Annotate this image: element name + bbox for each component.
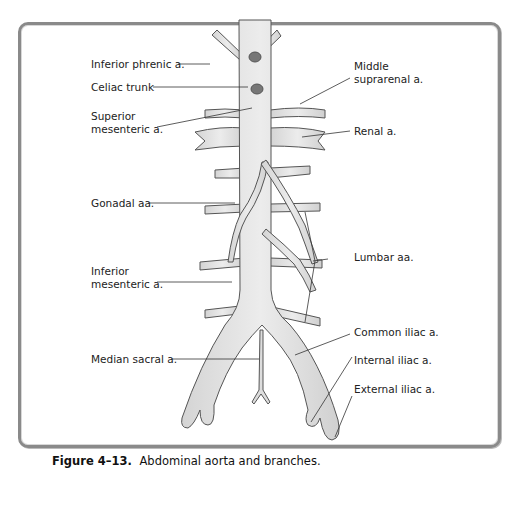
celiac-trunk-opening	[249, 52, 261, 62]
label-lumbar: Lumbar aa.	[354, 251, 414, 264]
lumbar-3-left	[200, 258, 245, 270]
inferior-phrenic-left	[212, 30, 243, 60]
superior-mesenteric-opening	[251, 84, 263, 94]
renal-left	[195, 128, 245, 151]
label-middle-suprarenal-line1: Middle	[354, 60, 423, 73]
lumbar-2-left	[205, 204, 245, 214]
label-gonadal: Gonadal aa.	[91, 197, 154, 210]
label-inferior-mesenteric-line1: Inferior	[91, 265, 163, 278]
figure-number: Figure 4–13.	[52, 454, 132, 468]
figure-caption: Figure 4–13. Abdominal aorta and branche…	[52, 454, 321, 468]
label-renal: Renal a.	[354, 125, 396, 138]
label-celiac-trunk: Celiac trunk	[91, 81, 154, 94]
renal-right	[270, 128, 325, 151]
median-sacral-artery	[252, 330, 270, 404]
label-inferior-phrenic: Inferior phrenic a.	[91, 58, 185, 71]
label-internal-iliac: Internal iliac a.	[354, 354, 432, 367]
label-external-iliac: External iliac a.	[354, 383, 435, 396]
figure-caption-text: Abdominal aorta and branches.	[139, 454, 320, 468]
label-common-iliac: Common iliac a.	[354, 326, 439, 339]
label-inferior-mesenteric-line2: mesenteric a.	[91, 278, 163, 291]
label-superior-mesenteric-line2: mesenteric a.	[91, 123, 163, 136]
label-superior-mesenteric-line1: Superior	[91, 110, 163, 123]
label-median-sacral: Median sacral a.	[91, 353, 177, 366]
label-middle-suprarenal-line2: suprarenal a.	[354, 73, 423, 86]
middle-suprarenal-right	[270, 108, 325, 118]
label-middle-suprarenal: Middle suprarenal a.	[354, 60, 423, 85]
label-superior-mesenteric: Superior mesenteric a.	[91, 110, 163, 135]
aorta-illustration	[0, 0, 521, 509]
label-inferior-mesenteric: Inferior mesenteric a.	[91, 265, 163, 290]
